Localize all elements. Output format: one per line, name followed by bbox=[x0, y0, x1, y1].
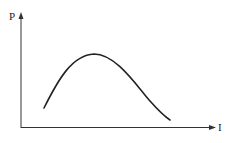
y-axis-arrow-icon bbox=[19, 12, 24, 19]
x-axis-arrow-icon bbox=[209, 125, 216, 130]
curve bbox=[44, 54, 170, 120]
y-axis-label: P bbox=[9, 11, 15, 22]
diagram bbox=[0, 0, 230, 143]
x-axis-label: I bbox=[218, 122, 222, 133]
